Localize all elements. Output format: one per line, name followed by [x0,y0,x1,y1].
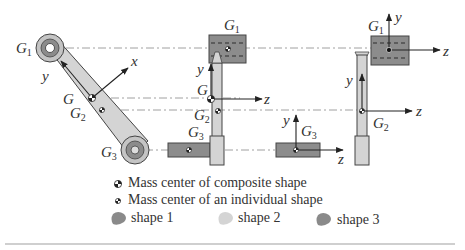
inclined-link-view: G1 y x G G2 G3 [16,34,149,164]
shape2-label-y: y [344,72,353,88]
x-axis-arrow [92,68,128,98]
composite-body-diagram: G1 y x G G2 G3 [0,0,465,250]
side-label-z: z [263,91,270,107]
shape1-center-icon [386,47,391,52]
side-composite-center-icon [207,95,214,102]
shape2-label-G2: G2 [373,115,389,133]
shape3-center-icon [293,147,298,152]
shape3-view: y G3 z [276,112,344,167]
vertical-link-side-view: G1 y G z G2 G3 [168,17,270,165]
shape1-label-G1: G1 [368,18,384,36]
legend-shape3-label: shape 3 [337,212,379,228]
shape3-label-G3: G3 [301,123,317,141]
shape2-center-icon [359,108,364,113]
label-G2: G2 [70,105,86,123]
shape3-label-y: y [281,112,290,128]
side-label-y: y [195,61,204,77]
legend-composite-label: Mass center of composite shape [128,175,307,191]
composite-center-icon [88,94,95,101]
shape1-view: G1 y z [368,9,449,65]
shape2-view: y G2 z [344,52,422,165]
shape1-label-z: z [442,43,449,59]
side-g1-center-icon [225,46,230,51]
legend-shape3-swatch-icon [317,213,332,226]
side-label-G3: G3 [188,124,204,142]
shape3-label-z: z [337,151,344,167]
legend-individual-label: Mass center of an individual shape [128,192,323,208]
legend-composite-icon [114,180,121,187]
side-g2-center-icon [215,108,220,113]
side-label-G1: G1 [224,17,240,35]
legend-shape2-label: shape 2 [238,210,280,226]
label-y-axis: y [40,68,49,84]
shape1-label-y: y [393,9,402,25]
individual-center-icon [99,107,104,112]
legend-shape1-swatch-icon [112,212,127,225]
legend-shape2-swatch-icon [219,212,234,225]
label-x-axis: x [130,53,138,69]
side-lower-boss [210,136,224,165]
side-label-G: G [197,82,208,98]
label-G3: G3 [101,144,117,162]
shape2-lower-boss [355,136,369,165]
label-G1: G1 [16,40,32,58]
legend-individual-icon [115,198,120,203]
shape2-label-z: z [415,103,422,119]
side-g3-center-icon [186,147,191,152]
legend-shape1-label: shape 1 [131,210,173,226]
